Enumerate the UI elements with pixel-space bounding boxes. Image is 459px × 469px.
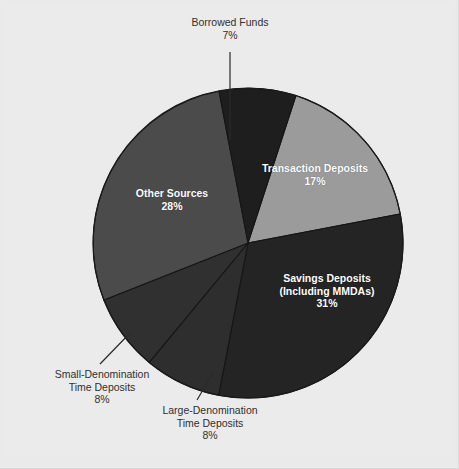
slice-label-other-sources: Other Sources 28%	[110, 187, 234, 212]
callout-label-small-denomination: Small-Denomination Time Deposits 8%	[34, 368, 170, 406]
slice-label-transaction-title: Transaction Deposits	[245, 162, 385, 175]
callout-label-large-line1: Large-Denomination	[140, 404, 280, 417]
callout-label-large-value: 8%	[140, 429, 280, 442]
slice-label-savings-subtitle: (Including MMDAs)	[252, 285, 402, 298]
callout-label-borrowed-funds: Borrowed Funds 7%	[168, 16, 292, 41]
callout-label-large-denomination: Large-Denomination Time Deposits 8%	[140, 404, 280, 442]
slice-label-transaction-deposits: Transaction Deposits 17%	[245, 162, 385, 187]
callout-label-borrowed-value: 7%	[168, 29, 292, 42]
leader-line-small-denomination	[100, 332, 131, 364]
slice-label-other-value: 28%	[110, 200, 234, 213]
callout-label-large-line2: Time Deposits	[140, 417, 280, 430]
slice-label-transaction-value: 17%	[245, 175, 385, 188]
figure-container: Transaction Deposits 17% Savings Deposit…	[0, 0, 459, 469]
slice-label-other-title: Other Sources	[110, 187, 234, 200]
slice-label-savings-value: 31%	[252, 297, 402, 310]
callout-label-small-line1: Small-Denomination	[34, 368, 170, 381]
slice-label-savings-deposits: Savings Deposits (Including MMDAs) 31%	[252, 272, 402, 310]
callout-label-small-line2: Time Deposits	[34, 381, 170, 394]
slice-label-savings-title: Savings Deposits	[252, 272, 402, 285]
callout-label-borrowed-title: Borrowed Funds	[168, 16, 292, 29]
